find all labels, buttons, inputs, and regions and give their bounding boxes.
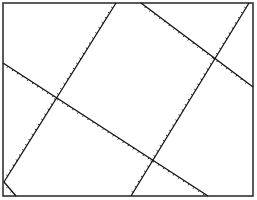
diagram-canvas [0,0,257,200]
corner-line [4,182,16,196]
hatch-tick [145,7,146,8]
hatch-tick [212,57,213,58]
hatch-tick [241,79,242,80]
hatch-tick [154,14,155,15]
hatch-tick [188,39,189,40]
hatch-tick [178,32,179,33]
hatch-tick [202,50,203,51]
hatch-tick [164,21,165,22]
hatch-tick [226,68,227,69]
fault-line-1 [4,3,116,182]
fault-line-2 [3,63,208,196]
hatch-tick [198,46,199,47]
hatch-tick [217,61,218,62]
hatch-tick [231,71,232,72]
hatch-tick [207,53,208,54]
hatch-tick [159,17,160,18]
hatch-tick [169,25,170,26]
hatch-tick [236,75,237,76]
hatch-tick [193,43,194,44]
hatch-tick [150,10,151,11]
hatch-tick [222,64,223,65]
hatch-tick [183,35,184,36]
diagram-frame [3,3,253,196]
fault-line-3 [141,3,253,87]
hatched-lines-group [3,3,253,196]
hatch-tick [7,187,8,188]
hatch-tick [10,191,11,192]
hatch-tick [246,82,247,83]
hatch-tick [174,28,175,29]
